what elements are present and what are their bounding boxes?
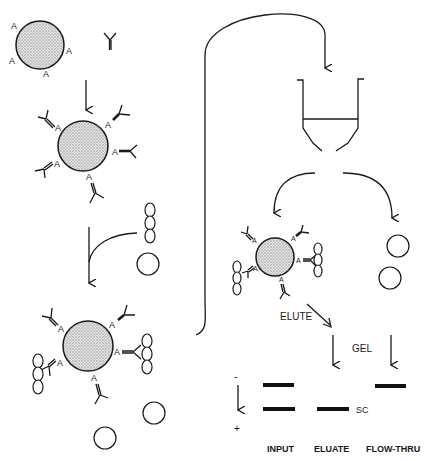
lane-label-input: INPUT (267, 444, 295, 454)
protein-a-label: A (105, 120, 111, 130)
protein-a-label: A (86, 172, 92, 182)
antigen-oval (33, 380, 43, 394)
protein-a-label: A (66, 46, 72, 56)
antigen-oval (142, 347, 152, 361)
antibody-icon (119, 145, 137, 158)
protein-a-label: A (112, 147, 118, 157)
antibody-icon (296, 225, 309, 236)
protein-a-label: A (11, 21, 17, 31)
antibody-icon (280, 284, 290, 299)
protein-a-label: A (91, 373, 97, 383)
antigen-oval (33, 367, 43, 381)
ip-workflow-diagram: A A A A A A A A A A A A A (0, 0, 430, 461)
step2-bead-antibody: A A A A A (35, 105, 137, 203)
gel-label: GEL (352, 343, 372, 354)
antigen-complex-icon (145, 203, 155, 243)
protein-a-label: A (291, 235, 296, 242)
protein-a-bead (63, 321, 113, 371)
gel-schematic: - + SC INPUT ELUATE FLOW-THRU (234, 371, 420, 454)
protein-a-label: A (57, 358, 63, 368)
curve-connector (89, 233, 137, 262)
antibody-icon (118, 305, 135, 320)
elute-label: ELUTE (280, 311, 313, 322)
antibody-icon (42, 308, 58, 326)
antigen-oval (142, 334, 152, 348)
arrow-flowthrough-icon (343, 173, 392, 218)
protein-a-bead (16, 21, 64, 69)
cell-icon (137, 253, 159, 275)
antibody-icon (113, 105, 130, 120)
minus-label: - (234, 371, 237, 382)
protein-a-label: A (296, 257, 301, 264)
lane-label-flowthru: FLOW-THRU (366, 444, 420, 454)
antibody-icon (95, 384, 108, 404)
antibody-icon (35, 162, 53, 178)
lane-label-eluate: ELUATE (314, 444, 349, 454)
cell-icon (387, 235, 409, 257)
antigen-oval (142, 360, 152, 374)
transfer-arrow (196, 14, 325, 335)
protein-a-label: A (54, 159, 60, 169)
protein-a-label: A (43, 69, 49, 79)
antigen-oval (33, 354, 43, 368)
bound-bead-complex: A A A A A (233, 225, 322, 299)
sc-label: SC (356, 405, 369, 415)
step1-bead: A A A A (9, 21, 116, 79)
cell-icon (379, 267, 401, 289)
protein-a-bead (58, 121, 108, 171)
spin-column-icon (297, 79, 364, 151)
antibody-icon (104, 33, 116, 50)
protein-a-bead (256, 238, 294, 276)
protein-a-label: A (279, 276, 284, 283)
protein-a-label: A (114, 347, 120, 357)
antibody-icon (38, 110, 55, 128)
protein-a-label: A (9, 56, 15, 66)
antibody-icon (241, 226, 253, 240)
protein-a-label: A (55, 123, 61, 133)
protein-a-label: A (109, 320, 115, 330)
protein-a-label: A (58, 324, 64, 334)
antibody-icon (90, 183, 104, 203)
cell-icon (94, 427, 116, 449)
cell-icon (143, 402, 165, 424)
plus-label: + (234, 423, 240, 434)
antibody-icon (122, 345, 141, 359)
arrow-bound-icon (274, 173, 315, 213)
step3-bead-antigen: A A A A A (33, 305, 152, 404)
